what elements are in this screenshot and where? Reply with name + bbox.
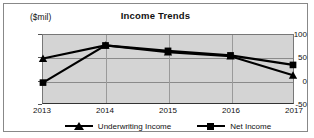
- series-plot: [43, 35, 293, 103]
- square-marker: [40, 79, 47, 86]
- y-axis-tick-mark: [38, 104, 42, 105]
- legend-entry[interactable]: Net Income: [197, 121, 271, 131]
- square-marker: [227, 52, 234, 59]
- legend-swatch: [197, 121, 225, 131]
- legend-entry[interactable]: Underwriting Income: [65, 121, 171, 131]
- x-axis-tick-label: 2014: [96, 106, 114, 115]
- square-marker-icon: [207, 123, 214, 130]
- triangle-marker-icon: [74, 122, 84, 130]
- x-axis-tick-label: 2017: [285, 106, 303, 115]
- plot-area: [42, 34, 294, 104]
- chart-legend: Underwriting IncomeNet Income: [42, 118, 294, 134]
- legend-label: Underwriting Income: [98, 122, 171, 131]
- x-axis-tick-label: 2016: [222, 106, 240, 115]
- square-marker: [102, 42, 109, 49]
- legend-swatch: [65, 121, 93, 131]
- legend-label: Net Income: [230, 122, 271, 131]
- chart-screenshot: Income Trends ($mil) 100500-50 201320142…: [0, 0, 314, 138]
- square-marker: [290, 62, 297, 69]
- chart-frame: Income Trends ($mil) 100500-50 201320142…: [3, 3, 308, 132]
- x-axis-tick-label: 2015: [159, 106, 177, 115]
- x-axis-tick-label: 2013: [33, 106, 51, 115]
- y-axis-unit-label: ($mil): [30, 12, 51, 22]
- square-marker: [165, 48, 172, 55]
